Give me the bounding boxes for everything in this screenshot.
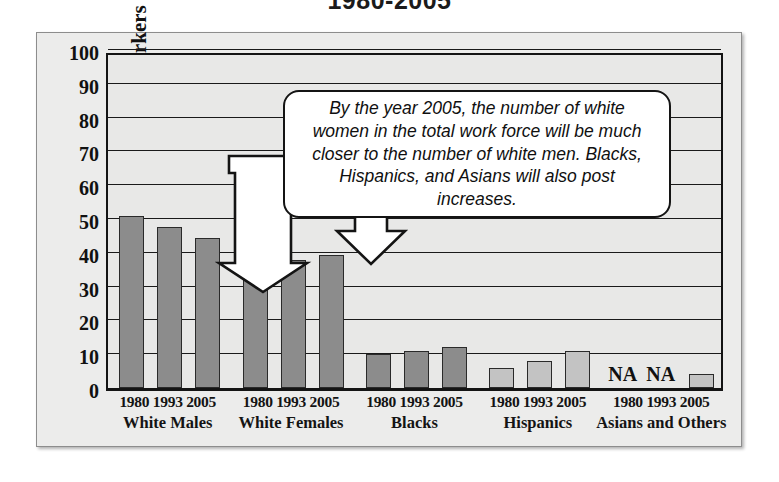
y-axis-tick-label: 50 xyxy=(39,212,99,232)
y-axis-tick-label: 70 xyxy=(39,144,99,164)
bar xyxy=(119,216,144,388)
y-axis-tick-label: 90 xyxy=(39,77,99,97)
bar xyxy=(442,347,467,388)
chart-title: 1980-2005 xyxy=(0,0,779,15)
bar xyxy=(404,351,429,388)
bar xyxy=(527,361,552,388)
x-axis-labels: 1980 1993 2005White Males1980 1993 2005W… xyxy=(106,393,723,443)
y-axis-tick-label: 80 xyxy=(39,111,99,131)
bar-na-label: NA xyxy=(608,363,637,386)
y-axis-tick-label: 40 xyxy=(39,246,99,266)
callout-box: By the year 2005, the number of white wo… xyxy=(283,90,671,218)
gridline xyxy=(108,49,721,50)
bar xyxy=(565,351,590,388)
callout-text: By the year 2005, the number of white wo… xyxy=(285,97,669,211)
bar xyxy=(157,227,182,388)
x-axis-group: 1980 1993 2005Asians and Others xyxy=(588,393,735,433)
bar xyxy=(366,354,391,388)
y-axis-tick-label: 100 xyxy=(39,43,99,63)
bar xyxy=(319,255,344,389)
bar-na-label: NA xyxy=(646,363,675,386)
chart-figure-frame: Percentage of Total Workers 100908070605… xyxy=(36,32,742,447)
x-axis-group-label: Asians and Others xyxy=(588,413,735,433)
gridline xyxy=(108,83,721,84)
y-axis-tick-label: 60 xyxy=(39,178,99,198)
x-axis-year-labels: 1980 1993 2005 xyxy=(588,393,735,411)
gridline xyxy=(108,218,721,219)
y-axis-tick-label: 30 xyxy=(39,280,99,300)
bar xyxy=(689,374,714,388)
y-axis-tick-label: 0 xyxy=(39,381,99,401)
bar xyxy=(489,368,514,388)
y-axis-tick-label: 10 xyxy=(39,347,99,367)
y-axis-tick-label: 20 xyxy=(39,313,99,333)
